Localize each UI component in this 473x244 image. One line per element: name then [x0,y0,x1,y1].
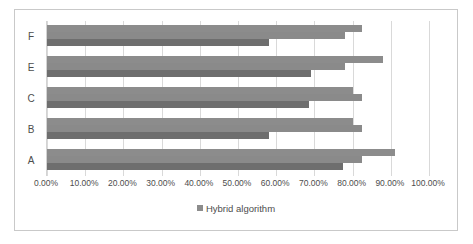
x-tick-label: 70.00% [299,178,328,188]
x-tick-label: 40.00% [184,178,213,188]
chart-frame: FECBA 0.00%10.00%20.00%30.00%40.00%50.00… [14,9,458,231]
x-tick-label: 60.00% [261,178,290,188]
y-tick-label-e: E [18,52,44,83]
chart-legend: Hybrid algorithm [15,202,457,214]
x-axis: 0.00%10.00%20.00%30.00%40.00%50.00%60.00… [46,178,428,192]
bar-e-series-3 [47,70,311,77]
x-tick-label: 100.00% [411,178,445,188]
y-tick-label-a: A [18,145,44,176]
gridline [429,21,430,176]
x-tick-label: 80.00% [337,178,366,188]
bar-a-series-2 [47,156,362,163]
y-tick-label-c: C [18,83,44,114]
bar-e-series-2 [47,63,345,70]
bar-group-a [47,145,428,176]
bar-group-e [47,52,428,83]
bar-b-series-3 [47,132,269,139]
x-tick-label: 10.00% [70,178,99,188]
bar-c-series-2 [47,94,362,101]
bar-a-series-1 [47,149,395,156]
x-tick-label: 30.00% [146,178,175,188]
legend-label-hybrid-algorithm: Hybrid algorithm [206,203,275,214]
x-tick-label: 20.00% [108,178,137,188]
plot-area [46,21,428,176]
legend-swatch-hybrid-algorithm [197,205,203,211]
x-tick-label: 50.00% [223,178,252,188]
bar-b-series-1 [47,118,353,125]
bar-f-series-3 [47,39,269,46]
bar-group-f [47,21,428,52]
bar-f-series-1 [47,25,362,32]
bar-a-series-3 [47,163,343,170]
y-tick-label-b: B [18,114,44,145]
y-tick-label-f: F [18,21,44,52]
bar-group-c [47,83,428,114]
x-tick-label: 0.00% [34,178,58,188]
bar-b-series-2 [47,125,362,132]
x-tick-label: 90.00% [375,178,404,188]
bar-e-series-1 [47,56,383,63]
bar-f-series-2 [47,32,345,39]
bar-c-series-3 [47,101,309,108]
bar-group-b [47,114,428,145]
bar-c-series-1 [47,87,353,94]
